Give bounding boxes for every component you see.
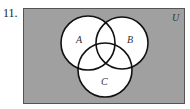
label-a: A [75,34,83,45]
label-c: C [101,76,108,87]
label-b: B [127,34,133,45]
venn-diagram: A B C U [0,0,190,109]
label-universe: U [172,12,180,23]
